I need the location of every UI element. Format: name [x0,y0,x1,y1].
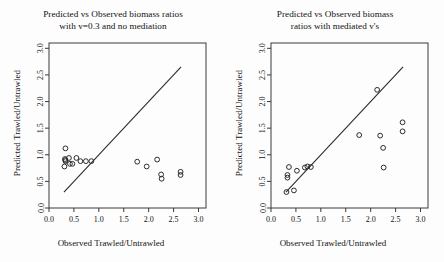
data-point [155,157,160,162]
reference-line-1to1 [286,67,403,192]
data-point [295,168,300,173]
y-tick-label: 2.5 [37,70,46,80]
y-tick-label: 1.0 [37,150,46,160]
y-tick-label: 1.5 [37,123,46,133]
x-tick-label: 1.0 [316,215,326,224]
x-axis-title-left: Observed Trawled/Untrawled [0,238,222,248]
x-tick-label: 0.5 [291,215,301,224]
y-tick-label: 1.0 [259,150,268,160]
x-tick-label: 1.5 [119,215,129,224]
x-tick-label: 2.5 [169,215,179,224]
x-tick-label: 0.0 [44,215,54,224]
scatter-plot-left: 0.00.51.01.52.02.53.00.00.51.01.52.02.53… [0,0,222,262]
x-tick-label: 3.0 [416,215,426,224]
data-point [378,133,383,138]
data-point [78,159,83,164]
chart-panel-right: Predicted vs Observed biomass ratios wit… [222,0,444,262]
x-tick-label: 2.5 [391,215,401,224]
figure-container: Predicted vs Observed biomass ratios wit… [0,0,444,262]
data-point [83,159,88,164]
x-tick-label: 3.0 [194,215,204,224]
data-point [400,120,405,125]
x-tick-label: 1.0 [94,215,104,224]
y-tick-label: 3.0 [37,43,46,53]
y-axis-title-left: Predicted Trawled/Untrawled [12,48,22,198]
data-point [357,133,362,138]
data-point [62,164,67,169]
x-axis-title-right: Observed Trawled/Untrawled [222,238,444,248]
y-tick-label: 0.0 [37,203,46,213]
y-tick-label: 2.0 [259,97,268,107]
data-point [144,164,149,169]
data-point [375,87,380,92]
y-tick-label: 2.0 [37,97,46,107]
chart-panel-left: Predicted vs Observed biomass ratios wit… [0,0,222,262]
y-tick-label: 3.0 [259,43,268,53]
data-point [292,188,297,193]
data-point [400,129,405,134]
data-point [63,146,68,151]
data-point [135,159,140,164]
data-point [178,173,183,178]
y-axis-title-right: Predicted Trawled/Untrawled [234,48,244,198]
scatter-plot-right: 0.00.51.01.52.02.53.00.00.51.01.52.02.53… [222,0,444,262]
x-tick-label: 1.5 [341,215,351,224]
y-tick-label: 1.5 [259,123,268,133]
data-point [287,165,292,170]
x-tick-label: 0.5 [69,215,79,224]
data-point [381,165,386,170]
y-tick-label: 0.5 [37,176,46,186]
y-tick-label: 0.5 [259,176,268,186]
y-tick-label: 2.5 [259,70,268,80]
x-tick-label: 2.0 [366,215,376,224]
data-point [381,145,386,150]
x-tick-label: 0.0 [266,215,276,224]
x-tick-label: 2.0 [144,215,154,224]
y-tick-label: 0.0 [259,203,268,213]
